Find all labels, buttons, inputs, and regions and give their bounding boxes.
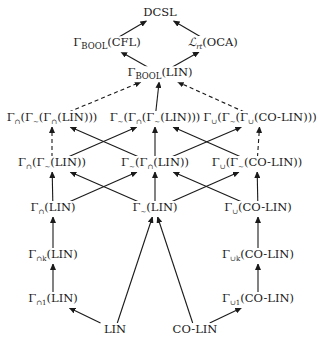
node-dcsl: DCSL (142, 6, 178, 20)
gamma-symbol: (Γ (32, 155, 44, 169)
node-tilde-lin: Γ∼(LIN) (131, 201, 178, 217)
gamma-symbol: Γ (73, 35, 81, 49)
gamma-symbol: Γ (222, 291, 230, 305)
edge-arrow-cup_tilde_cup_colin-to-gbool_lin (178, 82, 245, 112)
subscript: BOOL (81, 41, 107, 51)
gamma-symbol: (Γ (142, 110, 154, 124)
script-l-symbol: ℒ (188, 35, 196, 49)
argument: (CO-LIN) (240, 247, 294, 261)
gamma-symbol: Γ (224, 200, 232, 214)
edge-arrow-cap_tilde_cap_lin-to-gbool_lin (69, 82, 141, 112)
subscript: BOOL (135, 71, 161, 81)
node-colin: CO-LIN (172, 323, 219, 337)
gamma-symbol: Γ (28, 291, 36, 305)
argument: (CO-LIN) (238, 200, 292, 214)
gamma-symbol: (Γ (39, 110, 51, 124)
argument: (LIN) (47, 291, 78, 305)
gamma-symbol: Γ (132, 200, 140, 214)
edge-arrow-cap_lin-to-cap_tilde_lin (52, 172, 53, 202)
subscript: ∪1 (230, 299, 240, 307)
gamma-symbol: Γ (212, 155, 220, 169)
gamma-symbol: Γ (127, 65, 135, 79)
gamma-symbol: (Γ (236, 110, 248, 124)
gamma-symbol: (Γ (217, 110, 229, 124)
gamma-symbol: (Γ (123, 110, 135, 124)
label-colin: CO-LIN (173, 322, 218, 336)
edge-arrow-tilde_cap_lin-to-cap_tilde_cap_lin (70, 127, 139, 157)
node-cap1-lin: Γ∩1(LIN) (27, 292, 79, 308)
node-cap-lin: Γ∩(LIN) (29, 201, 76, 217)
node-gamma-bool-lin: ΓBOOL(LIN) (126, 66, 193, 82)
gamma-symbol: (Γ (226, 155, 238, 169)
subscript: ∩k (36, 255, 46, 263)
node-cup1-colin: Γ∪1(CO-LIN) (221, 292, 295, 308)
node-cup-tilde-cup-colin: Γ∪(Γ∼(Γ∪(CO-LIN))) (202, 111, 317, 127)
edge-arrow-cup_colin-to-tilde_cap_lin (173, 172, 242, 202)
argument: (LIN) (44, 200, 75, 214)
gamma-symbol: Γ (18, 155, 26, 169)
edge-arrow-tilde_lin-to-cap_tilde_lin (70, 172, 139, 202)
edge-arrow-lin-to-tilde_lin (117, 217, 152, 323)
gamma-symbol: (Γ (135, 155, 147, 169)
argument: (LIN))) (57, 110, 97, 124)
argument: (LIN)) (153, 155, 189, 169)
edge-arrow-tilde_cap_tilde_lin-to-gbool_lin (156, 82, 159, 112)
label-lin: LIN (104, 322, 126, 336)
node-cup-colin: Γ∪(CO-LIN) (223, 201, 293, 217)
edge-arrow-colin-to-cup1_colin (210, 308, 242, 323)
argument: (CO-LIN))) (254, 110, 317, 124)
gamma-symbol: Γ (203, 110, 211, 124)
node-cap-tilde-cap-lin: Γ∩(Γ∼(Γ∩(LIN))) (6, 111, 99, 127)
gamma-symbol: Γ (222, 247, 230, 261)
label-dcsl: DCSL (143, 5, 177, 19)
node-lrt-oca: ℒrt(OCA) (187, 36, 239, 52)
gamma-symbol: (Γ (20, 110, 32, 124)
node-tilde-cap-tilde-lin: Γ∼(Γ∩(Γ∼(LIN))) (109, 111, 202, 127)
node-lin: LIN (103, 323, 127, 337)
node-tilde-cap-lin: Γ∼(Γ∩(LIN)) (120, 156, 190, 172)
edge-arrow-colin-to-tilde_lin (158, 217, 193, 323)
node-capk-lin: Γ∩k(LIN) (27, 248, 78, 264)
gamma-symbol: Γ (110, 110, 118, 124)
edge-arrow-cup_tilde_colin-to-cup_tilde_cup_colin (258, 127, 260, 157)
subscript: ∩1 (36, 299, 46, 307)
argument: (LIN) (46, 247, 77, 261)
gamma-symbol: Γ (28, 247, 36, 261)
argument: (CO-LIN) (240, 291, 294, 305)
argument: (CO-LIN)) (244, 155, 302, 169)
gamma-symbol: Γ (30, 200, 38, 214)
argument: (LIN) (161, 65, 192, 79)
edge-arrow-cup_colin-to-cup_tilde_colin (257, 172, 258, 202)
edge-arrow-cap_lin-to-tilde_cap_lin (69, 172, 137, 202)
node-cap-tilde-lin: Γ∩(Γ∼(LIN)) (17, 156, 87, 172)
gamma-symbol: Γ (121, 155, 129, 169)
subscript: ∪k (230, 255, 240, 263)
edge-arrow-lin-to-cap1_lin (70, 308, 101, 323)
node-cupk-colin: Γ∪k(CO-LIN) (221, 248, 295, 264)
edge-arrow-cap_tilde_lin-to-tilde_cap_tilde_lin (68, 127, 137, 157)
argument: (OCA) (202, 35, 238, 49)
node-gamma-bool-cfl: ΓBOOL(CFL) (72, 36, 141, 52)
gamma-symbol: Γ (7, 110, 15, 124)
argument: (LIN))) (160, 110, 200, 124)
argument: (CFL) (107, 35, 140, 49)
edge-arrow-tilde_lin-to-cup_tilde_colin (171, 172, 239, 202)
argument: (LIN)) (50, 155, 86, 169)
node-cup-tilde-colin: Γ∪(Γ∼(CO-LIN)) (211, 156, 303, 172)
argument: (LIN) (146, 200, 177, 214)
